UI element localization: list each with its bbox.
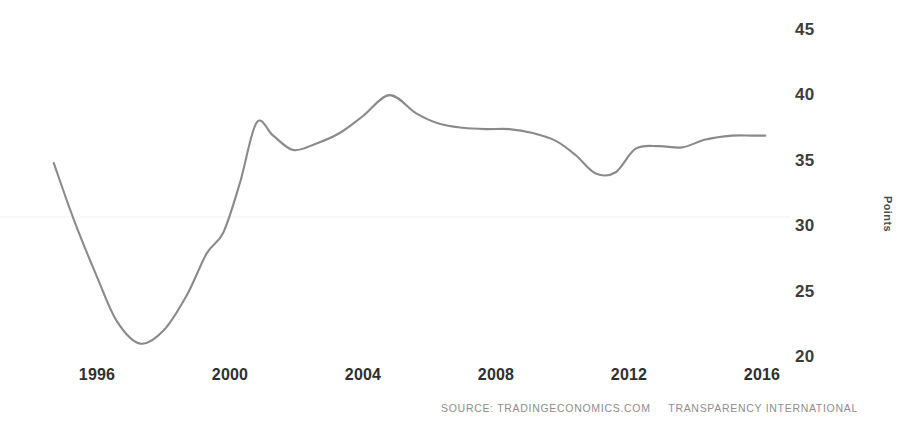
y-tick-label-35: 35 bbox=[795, 151, 814, 171]
y-tick-label-45: 45 bbox=[795, 20, 814, 40]
y-tick-label-30: 30 bbox=[795, 216, 814, 236]
y-tick-label-20: 20 bbox=[795, 347, 814, 367]
x-tick-label-2004: 2004 bbox=[345, 366, 381, 384]
chart-container: 45 40 35 30 25 20 1996 2000 2004 2008 20… bbox=[0, 0, 900, 436]
source-label: SOURCE: TRADINGECONOMICS.COM bbox=[441, 402, 651, 414]
source-provider: TRANSPARENCY INTERNATIONAL bbox=[668, 402, 858, 414]
x-tick-label-2012: 2012 bbox=[611, 366, 647, 384]
series-line-corruption-perceptions-index bbox=[54, 95, 766, 344]
x-tick-label-2016: 2016 bbox=[744, 366, 780, 384]
x-tick-label-2000: 2000 bbox=[212, 366, 248, 384]
x-tick-label-2008: 2008 bbox=[478, 366, 514, 384]
y-axis-title: Points bbox=[882, 196, 894, 232]
source-attribution: SOURCE: TRADINGECONOMICS.COM TRANSPARENC… bbox=[441, 402, 858, 414]
y-tick-label-25: 25 bbox=[795, 282, 814, 302]
y-tick-label-40: 40 bbox=[795, 85, 814, 105]
x-tick-label-1996: 1996 bbox=[79, 366, 115, 384]
series-line-group bbox=[54, 95, 766, 344]
